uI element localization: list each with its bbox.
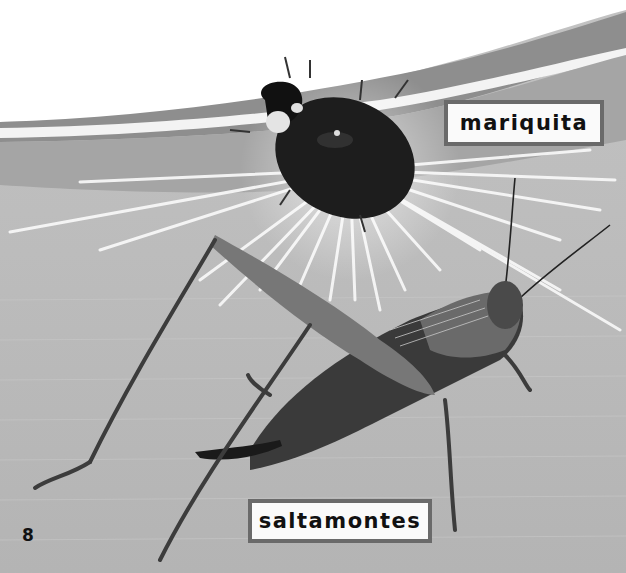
page-number: 8 [22, 525, 34, 545]
background-illustration [0, 0, 626, 573]
cricket-label: saltamontes [248, 499, 432, 543]
ladybug-label-text: mariquita [460, 111, 589, 135]
book-page: mariquita saltamontes 8 [0, 0, 626, 573]
ladybug-label: mariquita [444, 100, 604, 146]
cricket-label-text: saltamontes [259, 509, 422, 533]
